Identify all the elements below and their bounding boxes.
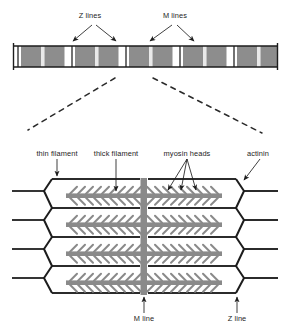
leader-myosin-heads [168,159,196,190]
detail-bottom-leaders [144,297,237,313]
label-m-line: M line [134,315,154,322]
z-line-lattice-left [44,179,52,293]
figure-root: Z lines M lines [0,0,290,333]
label-thick-filament: thick filament [94,150,139,157]
z-line-lattice-right [236,179,244,293]
detail-callout-leaders [57,159,260,191]
label-z-line: Z line [228,315,247,322]
label-thin-filament: thin filament [36,150,77,157]
leader-actinin [244,159,260,180]
label-actinin: actinin [247,150,269,157]
detail-view-layer [0,0,290,333]
label-myosin-heads: myosin heads [164,150,211,157]
